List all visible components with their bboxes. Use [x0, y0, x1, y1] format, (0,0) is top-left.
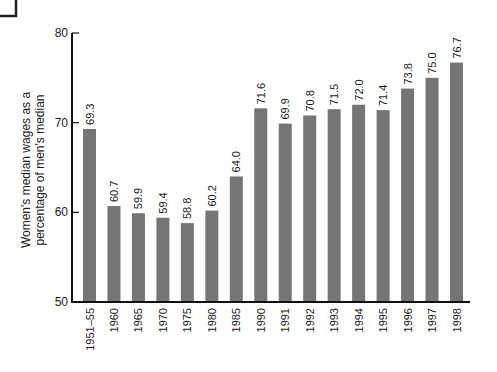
bar-value-label: 60.7 — [108, 181, 120, 202]
bar — [230, 176, 243, 302]
x-tick-label: 1985 — [230, 308, 242, 332]
bar — [328, 109, 341, 302]
bar-value-label: 64.0 — [230, 151, 242, 172]
bar — [107, 206, 120, 302]
x-tick-label: 1995 — [377, 308, 389, 332]
bar-value-label: 72.0 — [353, 79, 365, 100]
bar — [156, 218, 169, 302]
x-tick-label: 1970 — [157, 308, 169, 332]
bar — [132, 213, 145, 302]
y-axis-title-line: percentage of men's median — [33, 94, 47, 245]
bar-value-label: 59.4 — [157, 192, 169, 213]
bar — [352, 105, 365, 302]
bar — [205, 211, 218, 302]
bar-value-label: 71.5 — [328, 84, 340, 105]
y-tick-label: 60 — [55, 205, 69, 219]
bar — [426, 78, 439, 302]
corner-bracket-icon — [0, 0, 16, 16]
bar-value-label: 73.8 — [402, 63, 414, 84]
bars: 69.360.759.959.458.860.264.071.669.970.8… — [83, 37, 463, 302]
bar — [401, 89, 414, 302]
x-tick-label: 1980 — [206, 308, 218, 332]
bar-value-label: 76.7 — [451, 37, 463, 58]
bar — [377, 110, 390, 302]
x-axis: 1951–55196019651970197519801985199019911… — [71, 302, 470, 351]
bar — [254, 108, 267, 302]
bar-value-label: 69.3 — [84, 104, 96, 125]
y-tick-label: 70 — [55, 116, 69, 130]
x-tick-label: 1965 — [132, 308, 144, 332]
bar-chart: Women's median wages as apercentage of m… — [0, 0, 497, 372]
y-axis: 50607080 — [55, 26, 79, 309]
x-tick-label: 1998 — [451, 308, 463, 332]
bar-value-label: 59.9 — [132, 188, 144, 209]
x-tick-label: 1951–55 — [84, 308, 96, 351]
bar-value-label: 71.6 — [255, 83, 267, 104]
y-axis-title-line: Women's median wages as a — [19, 92, 33, 248]
x-tick-label: 1991 — [279, 308, 291, 332]
x-tick-label: 1992 — [304, 308, 316, 332]
bar — [303, 115, 316, 302]
x-tick-label: 1994 — [353, 308, 365, 332]
bar-value-label: 75.0 — [426, 52, 438, 73]
bar-value-label: 58.8 — [181, 198, 193, 219]
y-tick-label: 80 — [55, 26, 69, 40]
bar — [181, 223, 194, 302]
bar — [450, 63, 463, 302]
bar-value-label: 70.8 — [304, 90, 316, 111]
y-axis-title: Women's median wages as apercentage of m… — [19, 92, 47, 248]
x-tick-label: 1990 — [255, 308, 267, 332]
bar-value-label: 69.9 — [279, 98, 291, 119]
x-tick-label: 1997 — [426, 308, 438, 332]
y-tick-label: 50 — [55, 295, 69, 309]
bar — [279, 124, 292, 302]
x-tick-label: 1996 — [402, 308, 414, 332]
x-tick-label: 1993 — [328, 308, 340, 332]
bar-value-label: 60.2 — [206, 185, 218, 206]
x-tick-label: 1975 — [181, 308, 193, 332]
bar — [83, 129, 96, 302]
x-tick-label: 1960 — [108, 308, 120, 332]
bar-value-label: 71.4 — [377, 85, 389, 106]
